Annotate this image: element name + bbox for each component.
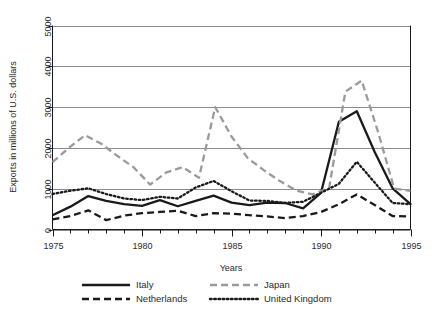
exports-line-chart: 010002000300040005000 197519801985199019…: [0, 0, 434, 314]
chart-figure: 010002000300040005000 197519801985199019…: [0, 0, 434, 314]
legend-label-italy: Italy: [136, 279, 154, 290]
x-tick-label-1990: 1990: [311, 241, 331, 251]
chart-background: [0, 0, 434, 314]
x-tick-label-1975: 1975: [43, 241, 63, 251]
y-tick-label-2000: 2000: [43, 138, 53, 158]
legend-label-japan: Japan: [264, 279, 290, 290]
y-axis-label: Exports in millions of U.S. dollars: [8, 61, 18, 193]
y-tick-label-1000: 1000: [43, 179, 53, 199]
y-tick-label-4000: 4000: [43, 56, 53, 76]
legend-label-united-kingdom: United Kingdom: [264, 293, 332, 304]
x-tick-label-1985: 1985: [222, 241, 242, 251]
legend-label-netherlands: Netherlands: [136, 293, 187, 304]
y-tick-label-0: 0: [43, 228, 53, 233]
y-tick-label-5000: 5000: [43, 16, 53, 36]
y-tick-label-3000: 3000: [43, 97, 53, 117]
x-tick-label-1995: 1995: [401, 241, 421, 251]
x-axis-label: Years: [220, 263, 243, 273]
x-tick-label-1980: 1980: [132, 241, 152, 251]
